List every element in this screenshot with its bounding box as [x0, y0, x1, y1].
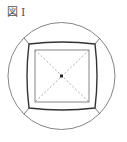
center-point	[60, 75, 63, 78]
diagram	[0, 0, 127, 142]
spoke-bottom-left	[24, 108, 29, 114]
spoke-top-right	[95, 38, 100, 44]
spoke-top-left	[24, 38, 29, 44]
spoke-bottom-right	[95, 108, 100, 114]
